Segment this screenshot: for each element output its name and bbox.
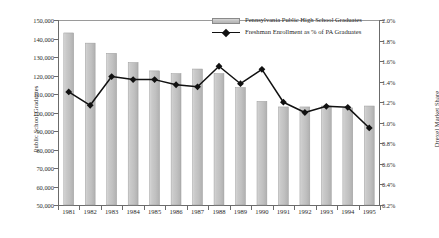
bar	[214, 74, 224, 205]
x-axis-labels: 1981198219831984198519861987198819891990…	[58, 208, 380, 224]
bar	[85, 43, 95, 205]
x-axis-tick-label: 1992	[298, 208, 311, 215]
y-axis-left-tick-mark	[54, 39, 58, 40]
bar	[150, 71, 160, 205]
plot-area	[58, 20, 380, 205]
x-axis-tick-label: 1984	[127, 208, 140, 215]
chart-legend: Pennsylvania Public High School Graduate…	[212, 16, 362, 37]
bar	[321, 106, 331, 205]
bar	[278, 107, 288, 205]
x-axis-tick-label: 1982	[84, 208, 97, 215]
x-axis-tick-label: 1990	[255, 208, 268, 215]
y-axis-left-tick-mark	[54, 187, 58, 188]
y-axis-left-ticks: 150,000140,000130,000120,000110,000100,0…	[16, 20, 54, 205]
y-axis-left-tick-mark	[54, 94, 58, 95]
y-axis-left-tick-mark	[54, 76, 58, 77]
bar	[128, 63, 138, 205]
y-axis-right-tick-mark	[380, 61, 384, 62]
legend-item-label: Pennsylvania Public High School Graduate…	[245, 17, 362, 24]
x-axis-tick-label: 1991	[277, 208, 290, 215]
y-axis-left-tick-label: 70,000	[36, 165, 54, 172]
bar	[171, 74, 181, 205]
y-axis-left-tick-label: 60,000	[36, 183, 54, 190]
y-axis-left-tick-label: 100,000	[33, 109, 54, 116]
bar	[343, 108, 353, 205]
y-axis-left-tick-label: 120,000	[33, 72, 54, 79]
y-axis-left-tick-label: 140,000	[33, 35, 54, 42]
bar	[64, 33, 74, 205]
x-axis-tick-label: 1988	[212, 208, 225, 215]
y-axis-left-tick-label: 80,000	[36, 146, 54, 153]
bar	[300, 107, 310, 205]
y-axis-left-tick-mark	[54, 131, 58, 132]
y-axis-left-tick-mark	[54, 150, 58, 151]
x-axis-tick-label: 1994	[341, 208, 354, 215]
plot-svg	[58, 20, 380, 205]
y-axis-left-tick-label: 150,000	[33, 17, 54, 24]
bar	[257, 101, 267, 205]
y-axis-left-tick-mark	[54, 168, 58, 169]
bar-swatch-icon	[212, 18, 240, 24]
x-axis-tick-label: 1985	[148, 208, 161, 215]
bar	[236, 88, 246, 205]
x-axis-tick-label: 1993	[320, 208, 333, 215]
x-axis-tick-label: 1995	[363, 208, 376, 215]
y-axis-right-tick-mark	[380, 184, 384, 185]
bar	[364, 106, 374, 205]
y-axis-right-tick-mark	[380, 41, 384, 42]
y-axis-left-tick-label: 130,000	[33, 54, 54, 61]
x-axis-tick-label: 1981	[62, 208, 75, 215]
x-axis-tick-label: 1987	[191, 208, 204, 215]
legend-item-line: Freshman Enrollment as % of PA Graduates	[212, 28, 362, 37]
y-axis-left-tick-label: 110,000	[33, 91, 54, 98]
y-axis-right-tick-mark	[380, 102, 384, 103]
y-axis-right-tick-mark	[380, 143, 384, 144]
y-axis-right-tick-mark	[380, 123, 384, 124]
y-axis-left-tick-mark	[54, 57, 58, 58]
y-axis-left-tick-label: 90,000	[36, 128, 54, 135]
y-axis-left-tick-mark	[54, 20, 58, 21]
y-axis-right-tick-mark	[380, 164, 384, 165]
x-axis-tick-label: 1983	[105, 208, 118, 215]
y-axis-right-tick-mark	[380, 82, 384, 83]
x-axis-tick-mark	[380, 206, 381, 210]
line-diamond-swatch-icon	[212, 29, 240, 36]
y-axis-right-tick-mark	[380, 20, 384, 21]
x-axis-tick-label: 1986	[169, 208, 182, 215]
y-axis-right-ticks: 2.0%1.8%1.6%1.4%1.2%1.0%0.8%0.6%0.4%0.2%	[382, 20, 412, 205]
y-axis-right-title: Drexel Market Share	[432, 91, 439, 147]
y-axis-left-tick-label: 50,000	[36, 202, 54, 209]
y-axis-left-tick-mark	[54, 113, 58, 114]
legend-item-bars: Pennsylvania Public High School Graduate…	[212, 16, 362, 25]
legend-item-label: Freshman Enrollment as % of PA Graduates	[245, 29, 361, 36]
x-axis-tick-label: 1989	[234, 208, 247, 215]
